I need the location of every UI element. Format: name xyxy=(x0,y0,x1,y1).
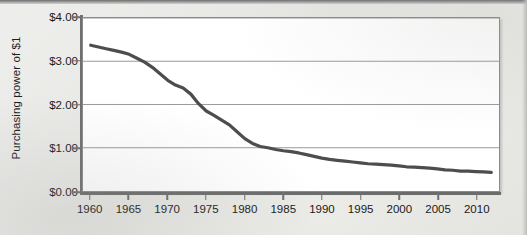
y-axis-tick-mark xyxy=(72,60,82,62)
x-axis-tick-mark xyxy=(437,192,439,200)
x-axis-tick-label: 1965 xyxy=(116,203,142,215)
x-axis-tick-label: 2010 xyxy=(464,203,490,215)
y-axis-tick-label: $2.00 xyxy=(26,99,78,111)
y-axis-tick-mark xyxy=(72,191,82,193)
x-axis-tick-label: 1985 xyxy=(270,203,296,215)
y-axis-tick-labels: $4.00$3.00$2.00$1.00$0.00 xyxy=(26,0,78,235)
scan-edge-top xyxy=(0,0,527,4)
scan-edge-right xyxy=(522,0,527,235)
x-axis-tick-label: 2005 xyxy=(425,203,451,215)
x-axis-tick-mark xyxy=(360,192,362,200)
y-axis-title-label: Purchasing power of $1 xyxy=(10,36,22,159)
x-axis-tick-label: 1975 xyxy=(193,203,219,215)
x-axis-tick-mark xyxy=(89,192,91,200)
x-axis-tick-label: 1960 xyxy=(77,203,103,215)
x-axis-tick-label: 2000 xyxy=(387,203,413,215)
data-line xyxy=(91,45,492,172)
data-series-group xyxy=(91,45,492,172)
x-axis-tick-mark xyxy=(205,192,207,200)
x-axis-tick-label: 1995 xyxy=(348,203,374,215)
chart-page: Purchasing power of $1 $4.00$3.00$2.00$1… xyxy=(0,0,527,235)
y-axis-tick-label: $0.00 xyxy=(26,186,78,198)
y-axis-tick-label: $4.00 xyxy=(26,11,78,23)
x-axis-tick-mark xyxy=(399,192,401,200)
y-axis-tick-mark xyxy=(72,148,82,150)
x-axis-tick-mark xyxy=(128,192,130,200)
x-axis-tick-mark xyxy=(283,192,285,200)
x-axis-tick-label: 1980 xyxy=(232,203,258,215)
chart-svg xyxy=(83,18,499,191)
y-axis-tick-label: $1.00 xyxy=(26,142,78,154)
y-axis-tick-mark xyxy=(72,104,82,106)
x-axis-tick-label: 1970 xyxy=(154,203,180,215)
y-axis-title: Purchasing power of $1 xyxy=(4,0,28,196)
y-axis-tick-label: $3.00 xyxy=(26,55,78,67)
x-axis-tick-mark xyxy=(476,192,478,200)
y-axis-tick-mark xyxy=(72,16,82,18)
gridlines xyxy=(83,18,499,148)
x-axis-tick-mark xyxy=(321,192,323,200)
x-axis-tick-label: 1990 xyxy=(309,203,335,215)
x-axis-tick-mark xyxy=(166,192,168,200)
plot-area xyxy=(82,17,500,192)
x-axis-tick-mark xyxy=(244,192,246,200)
